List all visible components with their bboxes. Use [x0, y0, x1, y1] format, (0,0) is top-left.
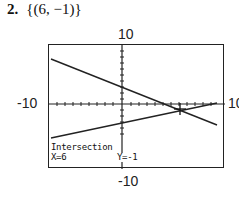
- graph-lines: [51, 59, 217, 138]
- intersection-title: Intersection: [51, 143, 112, 152]
- problem-statement: 2.{(6, −1)}: [7, 0, 82, 18]
- ymax-label: 10: [118, 27, 134, 41]
- y-readout: Y=-1: [117, 153, 137, 162]
- x-readout: X=6: [51, 153, 66, 162]
- ymin-label: -10: [118, 174, 138, 188]
- xmax-label: 10: [228, 96, 239, 110]
- calculator-screen: Intersection X=6 Y=-1: [48, 44, 224, 168]
- line-decreasing: [51, 59, 217, 125]
- solution-set: {(6, −1)}: [26, 1, 81, 17]
- xmin-label: -10: [17, 96, 37, 110]
- problem-number: 2.: [7, 1, 18, 17]
- trace-cursor-icon: [174, 103, 186, 115]
- line-increasing: [51, 103, 217, 138]
